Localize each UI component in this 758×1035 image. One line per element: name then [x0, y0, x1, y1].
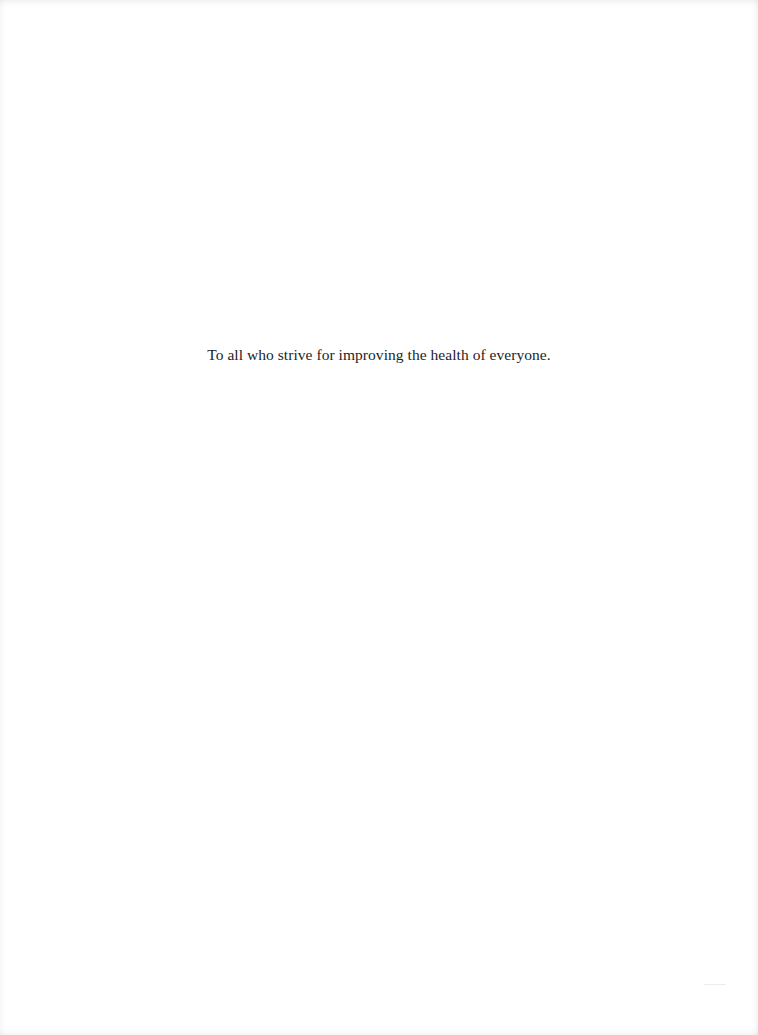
dedication-text: To all who strive for improving the heal…: [0, 345, 758, 365]
document-page: To all who strive for improving the heal…: [0, 0, 758, 1035]
scan-artifact: [704, 984, 726, 985]
